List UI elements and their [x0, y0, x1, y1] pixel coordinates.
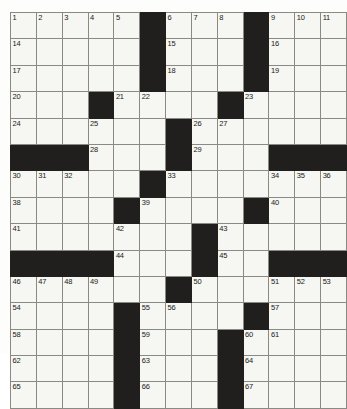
crossword-cell[interactable]: 21 — [114, 92, 140, 118]
crossword-cell[interactable]: 16 — [269, 39, 295, 65]
crossword-cell[interactable] — [140, 250, 166, 276]
crossword-cell[interactable]: 56 — [166, 303, 192, 329]
crossword-cell[interactable] — [62, 356, 88, 382]
crossword-cell[interactable]: 18 — [166, 65, 192, 91]
crossword-cell[interactable]: 1 — [11, 13, 37, 39]
crossword-cell[interactable] — [114, 171, 140, 197]
crossword-cell[interactable] — [114, 118, 140, 144]
crossword-cell[interactable] — [88, 356, 114, 382]
crossword-cell[interactable] — [62, 118, 88, 144]
crossword-cell[interactable] — [36, 197, 62, 223]
crossword-cell[interactable] — [269, 118, 295, 144]
crossword-cell[interactable]: 53 — [321, 276, 347, 302]
crossword-cell[interactable] — [36, 356, 62, 382]
crossword-cell[interactable]: 11 — [321, 13, 347, 39]
crossword-cell[interactable]: 58 — [11, 329, 37, 355]
crossword-cell[interactable] — [321, 39, 347, 65]
crossword-cell[interactable]: 8 — [217, 13, 243, 39]
crossword-cell[interactable] — [114, 39, 140, 65]
crossword-cell[interactable] — [62, 92, 88, 118]
crossword-cell[interactable] — [36, 329, 62, 355]
crossword-cell[interactable] — [321, 197, 347, 223]
crossword-cell[interactable] — [166, 224, 192, 250]
crossword-cell[interactable]: 51 — [269, 276, 295, 302]
crossword-cell[interactable]: 64 — [243, 356, 269, 382]
crossword-cell[interactable] — [88, 224, 114, 250]
crossword-cell[interactable] — [36, 118, 62, 144]
crossword-cell[interactable]: 31 — [36, 171, 62, 197]
crossword-cell[interactable] — [191, 329, 217, 355]
crossword-cell[interactable] — [36, 303, 62, 329]
crossword-cell[interactable]: 45 — [217, 250, 243, 276]
crossword-cell[interactable]: 48 — [62, 276, 88, 302]
crossword-cell[interactable] — [191, 356, 217, 382]
crossword-cell[interactable] — [36, 382, 62, 408]
crossword-cell[interactable] — [295, 197, 321, 223]
crossword-cell[interactable] — [243, 224, 269, 250]
crossword-cell[interactable] — [140, 276, 166, 302]
crossword-cell[interactable] — [321, 329, 347, 355]
crossword-cell[interactable]: 23 — [243, 92, 269, 118]
crossword-cell[interactable] — [243, 171, 269, 197]
crossword-cell[interactable]: 49 — [88, 276, 114, 302]
crossword-cell[interactable]: 26 — [191, 118, 217, 144]
crossword-cell[interactable] — [321, 92, 347, 118]
crossword-cell[interactable]: 60 — [243, 329, 269, 355]
crossword-cell[interactable] — [166, 250, 192, 276]
crossword-cell[interactable]: 7 — [191, 13, 217, 39]
crossword-cell[interactable] — [88, 329, 114, 355]
crossword-cell[interactable] — [114, 144, 140, 170]
crossword-cell[interactable] — [88, 303, 114, 329]
crossword-cell[interactable]: 65 — [11, 382, 37, 408]
crossword-cell[interactable]: 33 — [166, 171, 192, 197]
crossword-cell[interactable] — [36, 39, 62, 65]
crossword-cell[interactable]: 47 — [36, 276, 62, 302]
crossword-cell[interactable] — [191, 39, 217, 65]
crossword-cell[interactable] — [62, 329, 88, 355]
crossword-cell[interactable]: 46 — [11, 276, 37, 302]
crossword-cell[interactable]: 39 — [140, 197, 166, 223]
crossword-cell[interactable]: 15 — [166, 39, 192, 65]
crossword-cell[interactable] — [217, 144, 243, 170]
crossword-cell[interactable]: 35 — [295, 171, 321, 197]
crossword-cell[interactable] — [295, 92, 321, 118]
crossword-cell[interactable] — [295, 65, 321, 91]
crossword-cell[interactable] — [191, 65, 217, 91]
crossword-cell[interactable] — [114, 276, 140, 302]
crossword-cell[interactable] — [295, 356, 321, 382]
crossword-cell[interactable] — [191, 171, 217, 197]
crossword-cell[interactable]: 25 — [88, 118, 114, 144]
crossword-cell[interactable] — [166, 329, 192, 355]
crossword-cell[interactable]: 34 — [269, 171, 295, 197]
crossword-cell[interactable]: 30 — [11, 171, 37, 197]
crossword-cell[interactable]: 55 — [140, 303, 166, 329]
crossword-cell[interactable]: 27 — [217, 118, 243, 144]
crossword-cell[interactable] — [140, 224, 166, 250]
crossword-cell[interactable]: 3 — [62, 13, 88, 39]
crossword-cell[interactable]: 9 — [269, 13, 295, 39]
crossword-cell[interactable]: 6 — [166, 13, 192, 39]
crossword-cell[interactable]: 4 — [88, 13, 114, 39]
crossword-cell[interactable] — [217, 303, 243, 329]
crossword-cell[interactable] — [321, 303, 347, 329]
crossword-cell[interactable] — [88, 197, 114, 223]
crossword-cell[interactable] — [217, 65, 243, 91]
crossword-cell[interactable]: 40 — [269, 197, 295, 223]
crossword-cell[interactable] — [166, 356, 192, 382]
crossword-cell[interactable]: 17 — [11, 65, 37, 91]
crossword-cell[interactable]: 57 — [269, 303, 295, 329]
crossword-cell[interactable]: 42 — [114, 224, 140, 250]
crossword-cell[interactable] — [321, 356, 347, 382]
crossword-cell[interactable]: 5 — [114, 13, 140, 39]
crossword-cell[interactable] — [295, 382, 321, 408]
crossword-cell[interactable]: 63 — [140, 356, 166, 382]
crossword-cell[interactable] — [217, 171, 243, 197]
crossword-cell[interactable] — [36, 65, 62, 91]
crossword-cell[interactable]: 67 — [243, 382, 269, 408]
crossword-cell[interactable] — [166, 197, 192, 223]
crossword-cell[interactable] — [321, 65, 347, 91]
crossword-cell[interactable]: 44 — [114, 250, 140, 276]
crossword-cell[interactable]: 14 — [11, 39, 37, 65]
crossword-cell[interactable] — [243, 276, 269, 302]
crossword-cell[interactable] — [62, 39, 88, 65]
